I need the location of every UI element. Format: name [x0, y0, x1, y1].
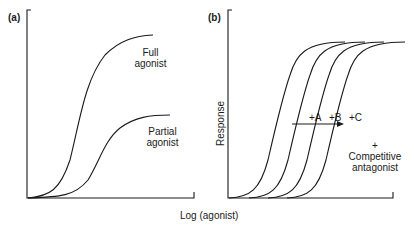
label-full-line2: agonist — [128, 58, 173, 69]
label-plus-a: +A — [309, 112, 322, 123]
curve-plus-a — [249, 42, 365, 198]
panel-label-b: (b) — [208, 12, 221, 23]
label-full-agonist: Full agonist — [128, 47, 173, 69]
label-partial-agonist: Partial agonist — [140, 126, 185, 148]
label-comp-line1: Competitive — [345, 151, 405, 162]
label-comp-line2: antagonist — [345, 162, 405, 173]
curve-plus-c — [287, 42, 405, 198]
axes-a — [27, 10, 194, 198]
curve-plus-b — [268, 42, 384, 198]
x-axis-label: Log (agonist) — [180, 210, 238, 221]
label-partial-line1: Partial — [140, 126, 185, 137]
label-full-line1: Full — [128, 47, 173, 58]
label-competitive-antagonist: + Competitive antagonist — [345, 140, 405, 173]
y-axis-label: Response — [215, 94, 226, 154]
curve-agonist — [229, 42, 345, 198]
label-partial-line2: agonist — [140, 137, 185, 148]
label-plus: + — [345, 140, 405, 151]
label-plus-b: +B — [329, 112, 342, 123]
label-plus-c: +C — [349, 112, 362, 123]
panel-label-a: (a) — [8, 12, 20, 23]
